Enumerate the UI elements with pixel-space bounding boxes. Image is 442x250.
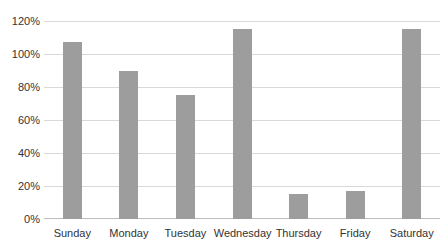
bar-thursday [289,194,308,219]
x-tick-label-friday: Friday [327,227,384,240]
y-tick-label: 40% [0,147,40,160]
bar-wednesday [233,29,252,219]
y-tick-label: 20% [0,180,40,193]
x-tick-label-saturday: Saturday [383,227,440,240]
bar-sunday [63,42,82,219]
x-tick-label-sunday: Sunday [44,227,101,240]
y-tick-label: 120% [0,15,40,28]
y-tick-label: 60% [0,114,40,127]
bar-chart: 0%20%40%60%80%100%120% SundayMondayTuesd… [0,0,442,250]
gridline [44,21,440,22]
bar-saturday [402,29,421,219]
y-tick-label: 0% [0,213,40,226]
bar-monday [119,71,138,220]
x-tick-label-thursday: Thursday [270,227,327,240]
bar-tuesday [176,95,195,219]
bar-friday [346,191,365,219]
y-tick-label: 100% [0,48,40,61]
y-tick-label: 80% [0,81,40,94]
plot-area [44,21,440,219]
x-tick-label-wednesday: Wednesday [214,227,271,240]
x-tick-label-tuesday: Tuesday [157,227,214,240]
x-tick-label-monday: Monday [101,227,158,240]
